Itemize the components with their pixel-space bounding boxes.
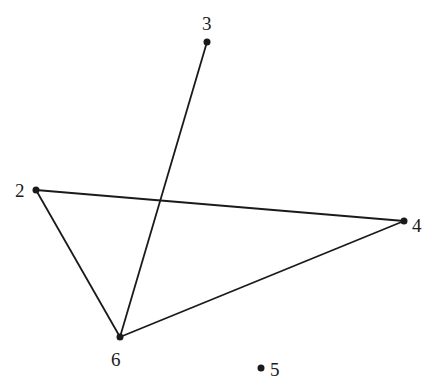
node-4	[401, 218, 408, 225]
edge-6-4	[120, 221, 404, 337]
node-label-6: 6	[111, 350, 121, 369]
graph-canvas	[0, 0, 437, 392]
node-3	[204, 39, 211, 46]
node-label-4: 4	[412, 216, 422, 235]
node-label-5: 5	[270, 360, 280, 379]
edge-3-6	[120, 42, 207, 337]
node-5	[258, 365, 265, 372]
edge-2-4	[36, 190, 404, 221]
node-2	[33, 187, 40, 194]
edge-2-6	[36, 190, 120, 337]
node-label-3: 3	[202, 14, 212, 33]
node-6	[117, 334, 124, 341]
node-label-2: 2	[15, 181, 25, 200]
